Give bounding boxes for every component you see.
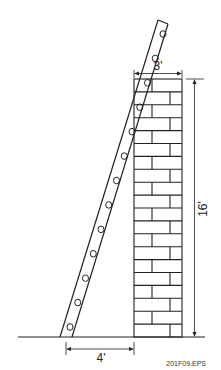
brick-wall bbox=[134, 79, 182, 337]
ladder-base-label: 4' bbox=[97, 351, 106, 365]
wall-height-label: 16' bbox=[196, 201, 210, 217]
ladder-wall-diagram: 3' 16' 4' 201F09.EPS bbox=[0, 0, 221, 370]
figure-caption: 201F09.EPS bbox=[166, 360, 206, 367]
wall-width-label: 3' bbox=[154, 59, 163, 73]
